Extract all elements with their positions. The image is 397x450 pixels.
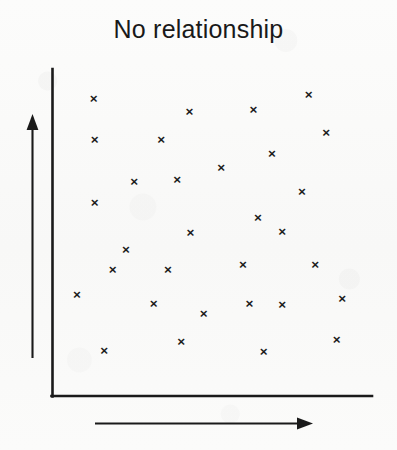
data-point-marker: × xyxy=(91,132,99,147)
y-axis-direction-arrow xyxy=(27,114,39,358)
data-point-marker: × xyxy=(91,195,99,210)
data-point-marker: × xyxy=(73,287,81,302)
data-point-marker: × xyxy=(311,257,319,272)
data-point-marker: × xyxy=(177,334,185,349)
data-point-marker: × xyxy=(164,262,172,277)
data-point-marker: × xyxy=(109,262,117,277)
data-point-marker: × xyxy=(157,132,165,147)
data-point-marker: × xyxy=(186,225,194,240)
plot-area: ××××××××××××××××××××××××××××××× xyxy=(0,0,397,450)
data-point-marker: × xyxy=(249,102,257,117)
data-point-marker: × xyxy=(217,160,225,175)
data-point-marker: × xyxy=(298,184,306,199)
x-arrow-head-icon xyxy=(297,418,313,430)
data-point-marker: × xyxy=(150,296,158,311)
scatter-plot-figure: No relationship ××××××××××××××××××××××××… xyxy=(0,0,397,450)
data-point-marker: × xyxy=(186,104,194,119)
data-point-marker: × xyxy=(90,91,98,106)
data-point-marker: × xyxy=(338,291,346,306)
data-point-marker: × xyxy=(200,306,208,321)
data-point-marker: × xyxy=(173,172,181,187)
data-point-marker: × xyxy=(278,297,286,312)
data-point-marker: × xyxy=(333,332,341,347)
data-point-marker: × xyxy=(246,296,254,311)
data-point-marker: × xyxy=(130,174,138,189)
y-arrow-head-icon xyxy=(27,114,39,130)
data-point-marker: × xyxy=(278,224,286,239)
data-point-marker: × xyxy=(100,343,108,358)
data-point-group: ××××××××××××××××××××××××××××××× xyxy=(73,87,346,359)
data-point-marker: × xyxy=(322,125,330,140)
data-point-marker: × xyxy=(268,146,276,161)
data-point-marker: × xyxy=(254,210,262,225)
data-point-marker: × xyxy=(239,257,247,272)
data-point-marker: × xyxy=(122,242,130,257)
x-axis-direction-arrow xyxy=(95,418,313,430)
data-point-marker: × xyxy=(305,87,313,102)
data-point-marker: × xyxy=(260,344,268,359)
